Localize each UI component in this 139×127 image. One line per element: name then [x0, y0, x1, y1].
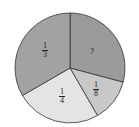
numerator: 1 [43, 42, 47, 50]
numerator: 1 [94, 81, 98, 89]
label-one-third: 1 3 [42, 42, 48, 59]
denominator: 4 [60, 97, 64, 105]
label-one-quarter: 1 4 [59, 88, 65, 105]
label-one-eighth: 1 8 [93, 81, 99, 98]
pie-chart [0, 0, 139, 127]
label-unknown: ? [90, 47, 94, 55]
numerator: 1 [60, 88, 64, 96]
denominator: 8 [94, 90, 98, 98]
denominator: 3 [43, 51, 47, 59]
